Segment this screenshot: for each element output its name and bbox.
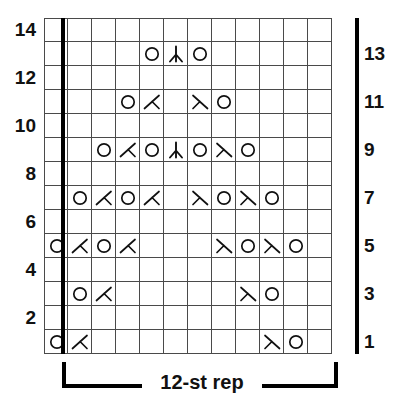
cell-r14-c5 [140, 18, 164, 42]
cell-r9-c11 [284, 138, 308, 162]
cell-r14-c2 [68, 18, 92, 42]
cell-r14-c4 [116, 18, 140, 42]
chart-row-11 [44, 90, 356, 114]
chart-row-10 [44, 114, 356, 138]
cell-r13-c10 [260, 42, 284, 66]
cell-r14-c3 [92, 18, 116, 42]
cell-r13-c11 [284, 42, 308, 66]
cell-r8-c8 [212, 162, 236, 186]
yarn-over-circle-icon [188, 138, 212, 162]
cell-r6-c6 [164, 210, 188, 234]
cell-r2-c3 [92, 306, 116, 330]
cell-r5-c3 [92, 234, 116, 258]
cell-r6-c2 [68, 210, 92, 234]
centered-double-decrease-icon [164, 138, 188, 162]
cell-r10-c11 [284, 114, 308, 138]
yarn-over-circle-icon [188, 42, 212, 66]
chart-row-9 [44, 138, 356, 162]
cell-r3-c12 [308, 282, 332, 306]
cell-r7-c4 [116, 186, 140, 210]
yarn-over-circle-icon [260, 186, 284, 210]
cell-r12-c6 [164, 66, 188, 90]
cell-r4-c4 [116, 258, 140, 282]
cell-r5-c9 [236, 234, 260, 258]
cell-r2-c7 [188, 306, 212, 330]
right-row-numbers: 131197531 [358, 18, 394, 354]
yarn-over-circle-icon [68, 186, 92, 210]
cell-r12-c9 [236, 66, 260, 90]
cell-r4-c8 [212, 258, 236, 282]
chart-grid-area [44, 18, 356, 354]
left-leaning-decrease-icon [92, 282, 116, 306]
cell-r14-c10 [260, 18, 284, 42]
cell-r9-c7 [188, 138, 212, 162]
chart-row-7 [44, 186, 356, 210]
cell-r3-c7 [188, 282, 212, 306]
row-number-left-2: 2 [2, 306, 40, 330]
cell-r6-c4 [116, 210, 140, 234]
cell-r6-c11 [284, 210, 308, 234]
yarn-over-circle-icon [92, 138, 116, 162]
right-leaning-decrease-icon [260, 234, 284, 258]
cell-r13-c4 [116, 42, 140, 66]
cell-r6-c10 [260, 210, 284, 234]
cell-r2-c4 [116, 306, 140, 330]
cell-r4-c5 [140, 258, 164, 282]
yarn-over-circle-icon [116, 90, 140, 114]
cell-r5-c5 [140, 234, 164, 258]
cell-r7-c9 [236, 186, 260, 210]
cell-r13-c9 [236, 42, 260, 66]
cell-r9-c8 [212, 138, 236, 162]
cell-r13-c7 [188, 42, 212, 66]
right-leaning-decrease-icon [236, 186, 260, 210]
yarn-over-circle-icon [140, 138, 164, 162]
cell-r9-c10 [260, 138, 284, 162]
cell-r8-c11 [284, 162, 308, 186]
cell-r4-c9 [236, 258, 260, 282]
cell-r1-c10 [260, 330, 284, 354]
chart-row-1 [44, 330, 356, 354]
cell-r1-c4 [116, 330, 140, 354]
cell-r6-c12 [308, 210, 332, 234]
cell-r11-c6 [164, 90, 188, 114]
cell-r14-c7 [188, 18, 212, 42]
cell-r10-c8 [212, 114, 236, 138]
cell-r3-c9 [236, 282, 260, 306]
cell-r12-c2 [68, 66, 92, 90]
cell-r1-c2 [68, 330, 92, 354]
left-leaning-decrease-icon [140, 186, 164, 210]
cell-r10-c3 [92, 114, 116, 138]
cell-r8-c10 [260, 162, 284, 186]
cell-r8-c7 [188, 162, 212, 186]
cell-r4-c7 [188, 258, 212, 282]
cell-r1-c9 [236, 330, 260, 354]
cell-r11-c4 [116, 90, 140, 114]
cell-r4-c10 [260, 258, 284, 282]
left-leaning-decrease-icon [68, 234, 92, 258]
cell-r4-c11 [284, 258, 308, 282]
cell-r2-c11 [284, 306, 308, 330]
cell-r10-c9 [236, 114, 260, 138]
row-number-left-6: 6 [2, 210, 40, 234]
cell-r8-c6 [164, 162, 188, 186]
cell-r3-c6 [164, 282, 188, 306]
cell-r12-c10 [260, 66, 284, 90]
cell-r14-c12 [308, 18, 332, 42]
cell-r9-c5 [140, 138, 164, 162]
left-leaning-decrease-icon [92, 186, 116, 210]
cell-r10-c2 [68, 114, 92, 138]
knitting-chart: 1412108642 131197531 12-st rep [0, 0, 394, 402]
row-number-right-1: 1 [358, 330, 394, 354]
cell-r1-c7 [188, 330, 212, 354]
yarn-over-circle-icon [260, 282, 284, 306]
cell-r9-c2 [68, 138, 92, 162]
yarn-over-circle-icon [212, 186, 236, 210]
cell-r2-c12 [308, 306, 332, 330]
cell-r7-c11 [284, 186, 308, 210]
cell-r9-c6 [164, 138, 188, 162]
cell-r5-c2 [68, 234, 92, 258]
chart-row-14 [44, 18, 356, 42]
row-number-left-10: 10 [2, 114, 40, 138]
cell-r12-c3 [92, 66, 116, 90]
cell-r8-c9 [236, 162, 260, 186]
